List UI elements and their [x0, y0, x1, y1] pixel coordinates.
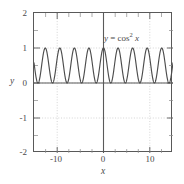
x-axis-title: x [90, 166, 116, 176]
x-tick-label-neg10: -10 [43, 155, 69, 164]
plot-area [33, 12, 172, 152]
chart-figure: 2 1 0 -1 -2 -10 0 10 x y [0, 0, 184, 184]
annotation-equals: = [110, 33, 115, 43]
y-tick-label-neg2: -2 [5, 148, 27, 157]
x-tick-label-0: 0 [90, 155, 116, 164]
y-tick-label-neg1: -1 [5, 114, 27, 123]
annotation-variable-y: y [104, 33, 108, 43]
x-tick-label-10: 10 [137, 155, 163, 164]
y-axis-title: y [6, 76, 18, 86]
annotation-variable-x: x [135, 33, 139, 43]
annotation-exponent: 2 [130, 31, 133, 38]
annotation-function: cos [118, 33, 130, 43]
y-tick-label-1: 1 [5, 44, 27, 53]
y-tick-label-2: 2 [5, 9, 27, 18]
curve-equation-annotation: y = cos2 x [104, 33, 139, 43]
